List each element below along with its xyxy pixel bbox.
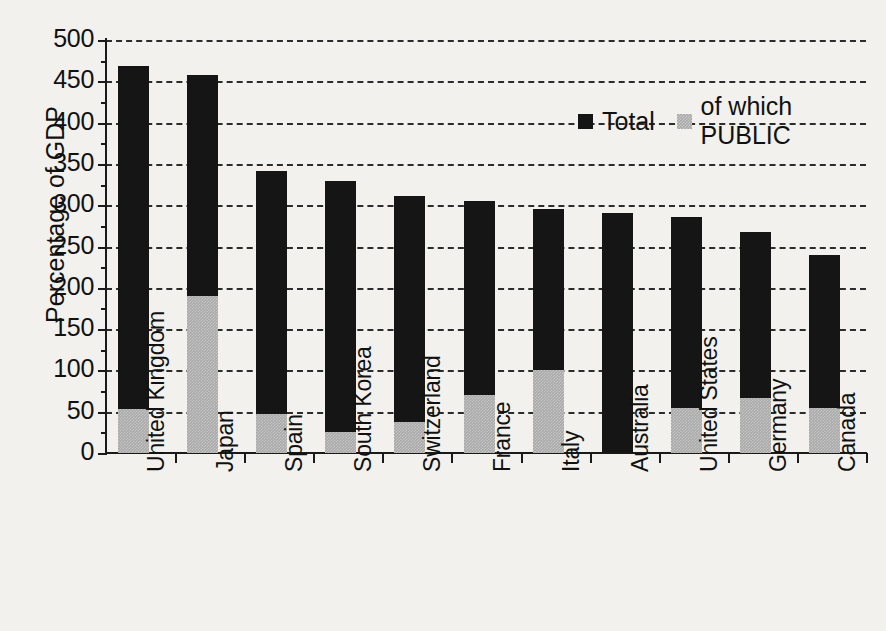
y-tick-150 bbox=[98, 329, 107, 331]
y-tick-250 bbox=[98, 247, 107, 249]
x-tick-4 bbox=[451, 453, 453, 463]
x-tick-5 bbox=[521, 453, 523, 463]
x-axis-label-united-states: United States bbox=[696, 337, 723, 472]
y-tick-500 bbox=[98, 40, 107, 42]
y-tick-label-50: 50 bbox=[34, 396, 94, 425]
x-axis-label-united-kingdom: United Kingdom bbox=[143, 311, 170, 472]
x-axis-label-italy: Italy bbox=[558, 431, 585, 472]
y-tick-minor-475 bbox=[101, 61, 107, 63]
bar-japan bbox=[187, 75, 218, 453]
chart-legend: Total of which PUBLIC bbox=[578, 92, 886, 150]
x-tick-8 bbox=[728, 453, 730, 463]
bar-spain bbox=[256, 171, 287, 453]
y-tick-minor-175 bbox=[101, 308, 107, 310]
y-tick-100 bbox=[98, 370, 107, 372]
x-axis-label-australia: Australia bbox=[627, 384, 654, 472]
y-tick-200 bbox=[98, 288, 107, 290]
x-tick-7 bbox=[659, 453, 661, 463]
gridline-500 bbox=[106, 40, 866, 42]
y-tick-minor-75 bbox=[101, 391, 107, 393]
y-tick-450 bbox=[98, 81, 107, 83]
y-tick-400 bbox=[98, 123, 107, 125]
bar-segment-total bbox=[256, 171, 287, 453]
x-tick-10 bbox=[866, 453, 868, 463]
y-axis-title: Percentage of GDP bbox=[41, 65, 70, 365]
x-axis-label-japan: Japan bbox=[212, 410, 239, 472]
x-axis-label-canada: Canada bbox=[834, 393, 861, 472]
legend-swatch-public-icon bbox=[677, 114, 692, 129]
legend-item-total: Total bbox=[578, 107, 655, 136]
x-tick-3 bbox=[382, 453, 384, 463]
y-tick-label-500: 500 bbox=[34, 24, 94, 53]
y-tick-minor-425 bbox=[101, 102, 107, 104]
x-tick-6 bbox=[590, 453, 592, 463]
x-axis-label-switzerland: Switzerland bbox=[419, 355, 446, 472]
y-tick-0 bbox=[98, 453, 107, 455]
legend-label-total: Total bbox=[602, 107, 655, 136]
y-tick-label-0: 0 bbox=[34, 437, 94, 466]
x-axis-label-france: France bbox=[489, 402, 516, 472]
y-tick-minor-275 bbox=[101, 226, 107, 228]
gridline-450 bbox=[106, 81, 866, 83]
legend-item-public: of which PUBLIC bbox=[677, 92, 886, 150]
legend-label-public: of which PUBLIC bbox=[701, 92, 886, 150]
chart-page: 050100150200250300350400450500 Percentag… bbox=[0, 0, 886, 631]
legend-swatch-total-icon bbox=[578, 114, 593, 129]
x-axis-label-germany: Germany bbox=[765, 379, 792, 472]
bar-italy bbox=[533, 209, 564, 453]
y-tick-minor-375 bbox=[101, 143, 107, 145]
y-tick-minor-25 bbox=[101, 432, 107, 434]
x-axis-label-south-korea: South Korea bbox=[350, 346, 377, 472]
x-axis-label-spain: Spain bbox=[281, 414, 308, 472]
y-tick-minor-225 bbox=[101, 267, 107, 269]
x-tick-9 bbox=[797, 453, 799, 463]
y-tick-50 bbox=[98, 412, 107, 414]
x-tick-2 bbox=[313, 453, 315, 463]
y-tick-minor-325 bbox=[101, 185, 107, 187]
y-tick-minor-125 bbox=[101, 350, 107, 352]
gridline-350 bbox=[106, 164, 866, 166]
y-tick-350 bbox=[98, 164, 107, 166]
x-tick-1 bbox=[244, 453, 246, 463]
y-tick-300 bbox=[98, 205, 107, 207]
x-tick-0 bbox=[175, 453, 177, 463]
